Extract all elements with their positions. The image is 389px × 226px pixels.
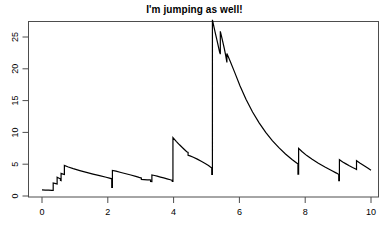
x-tick-label-3: 6 — [237, 207, 242, 217]
chart-container: I'm jumping as well! 0510152025 0246810 — [0, 0, 389, 226]
x-axis: 0246810 — [39, 197, 376, 217]
x-tick-label-5: 10 — [366, 207, 376, 217]
x-tick-label-2: 4 — [171, 207, 176, 217]
y-tick-label-0: 0 — [10, 193, 20, 198]
x-tick-label-0: 0 — [39, 207, 44, 217]
y-tick-label-2: 10 — [10, 127, 20, 137]
x-tick-label-1: 2 — [105, 207, 110, 217]
data-line-intensity — [42, 20, 371, 191]
x-tick-label-4: 8 — [303, 207, 308, 217]
y-tick-label-4: 20 — [10, 64, 20, 74]
y-axis: 0510152025 — [10, 32, 29, 199]
plot-area: 0510152025 0246810 — [0, 0, 389, 226]
y-tick-label-5: 25 — [10, 32, 20, 42]
y-tick-label-3: 15 — [10, 96, 20, 106]
y-tick-label-1: 5 — [10, 162, 20, 167]
